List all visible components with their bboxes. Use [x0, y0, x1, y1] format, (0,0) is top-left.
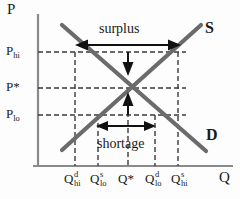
price-down-arrow-head: [123, 62, 134, 76]
y-axis-label: P: [7, 2, 15, 17]
quantity-tick-qd-hi-base: Q: [64, 171, 73, 186]
quantity-tick-qd-hi: Q d hi: [64, 172, 73, 185]
quantity-tick-qs-hi-sub: hi: [181, 179, 188, 188]
shortage-label: shortage: [97, 137, 144, 151]
supply-curve-label: S: [205, 20, 214, 36]
quantity-tick-q-star-base: Q*: [118, 171, 134, 186]
demand-curve-label: D: [206, 127, 218, 143]
surplus-label: surplus: [99, 22, 139, 36]
quantity-tick-qs-lo: Q s lo: [90, 172, 99, 185]
quantity-tick-q-star: Q*: [118, 172, 134, 185]
supply-demand-diagram: P Q Phi P* Plo Q d hi Q s lo Q* Q d lo Q…: [0, 0, 240, 199]
price-tick-p-lo: Plo: [6, 107, 20, 120]
quantity-tick-qs-lo-base: Q: [90, 171, 99, 186]
quantity-tick-qs-hi: Q s hi: [171, 172, 180, 185]
quantity-tick-qs-lo-sub: lo: [100, 179, 107, 188]
price-tick-p-star-base: P*: [6, 79, 20, 94]
shortage-arrow-head-left: [96, 121, 108, 131]
quantity-tick-qd-lo-sub: lo: [155, 179, 162, 188]
price-tick-p-hi: Phi: [6, 44, 20, 57]
shortage-arrow-head-right: [144, 121, 156, 131]
quantity-tick-qd-hi-sub: hi: [74, 179, 81, 188]
x-axis-label: Q: [219, 170, 230, 185]
shortage-arrow: [96, 121, 156, 131]
quantity-tick-qs-hi-base: Q: [171, 171, 180, 186]
price-tick-p-star: P*: [6, 80, 20, 93]
quantity-tick-qd-lo: Q d lo: [145, 172, 154, 185]
quantity-tick-qd-lo-base: Q: [145, 171, 154, 186]
price-tick-p-lo-sub: lo: [13, 113, 20, 123]
price-tick-p-hi-sub: hi: [13, 50, 20, 60]
price-down-arrow: [123, 52, 134, 76]
